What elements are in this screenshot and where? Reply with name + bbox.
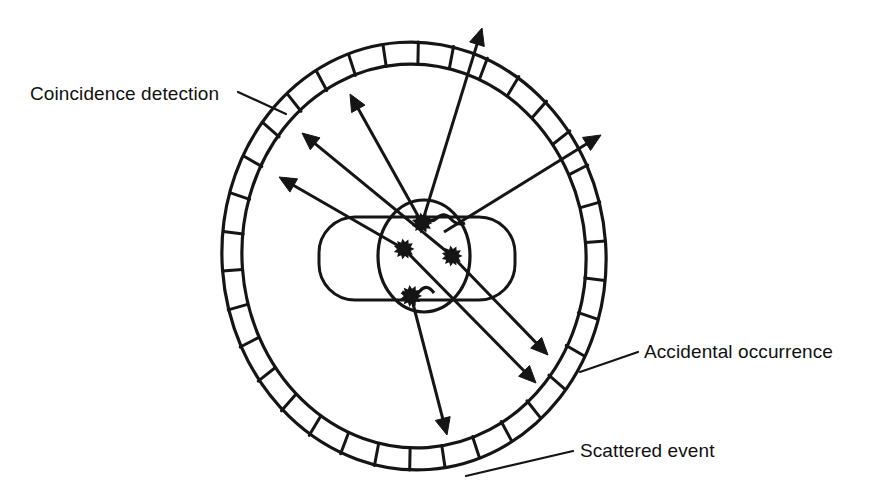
arrow-head-scattered [435, 417, 450, 435]
label-coincidence-detection: Coincidence detection [30, 83, 219, 104]
detector-block-separator [258, 368, 274, 381]
leader-line-scattered-event [466, 451, 573, 476]
detector-block-separator [578, 313, 597, 319]
ray-accidental [444, 141, 592, 232]
detector-block-separator [501, 421, 511, 440]
detector-block-separator [585, 278, 605, 281]
detector-block-separator [527, 401, 540, 418]
detector-block-separator [442, 445, 445, 467]
detector-block-separator [317, 72, 327, 91]
detector-block-separator [223, 231, 243, 234]
detector-block-separator [228, 304, 247, 310]
arrow-head-accidental [350, 94, 365, 113]
detector-block-separator [244, 156, 262, 166]
detector-block-separator [281, 395, 295, 411]
arrow-head-accidental [583, 135, 601, 150]
detector-block-separator [554, 131, 570, 144]
detector-block-separator [231, 193, 250, 199]
detector-block-separator [349, 55, 356, 76]
detector-block-separator [288, 95, 301, 112]
detector-block-separator [480, 58, 488, 78]
detector-block-separator [263, 123, 279, 137]
detector-block-separator [383, 45, 386, 67]
detector-block-separator [580, 202, 599, 208]
label-accidental-occurrence: Accidental occurrence [644, 341, 833, 362]
ray-scattered [411, 296, 444, 425]
detector-block-separator [472, 437, 479, 458]
detector-block-separator [449, 47, 453, 69]
detector-ring [208, 29, 621, 483]
detector-block-separator [222, 269, 242, 271]
event-point-4 [402, 287, 421, 306]
detector-block-separator [586, 241, 606, 243]
detector-block-separator [309, 417, 320, 435]
label-scattered-event: Scattered event [580, 440, 715, 461]
pet-detector-ring-diagram: Coincidence detectionAccidental occurren… [0, 0, 878, 494]
arrow-head-coincidence [279, 177, 298, 192]
callout-labels: Coincidence detectionAccidental occurren… [30, 83, 833, 476]
arrow-head-accidental [470, 28, 485, 46]
detector-block-separator [566, 345, 584, 355]
detector-block-separator [549, 375, 565, 389]
ring-outer-edge [208, 29, 621, 483]
detector-block-separator [570, 165, 588, 174]
detector-block-separator [508, 77, 519, 95]
detector-block-separator [240, 338, 258, 347]
diagram-canvas: Coincidence detectionAccidental occurren… [0, 0, 878, 494]
ray-coincidence [452, 256, 541, 347]
detector-block-separator [533, 101, 547, 117]
detector-block-separator [341, 433, 349, 453]
detector-block-separator [374, 444, 378, 466]
leader-line-accidental-occurrence [580, 352, 638, 372]
